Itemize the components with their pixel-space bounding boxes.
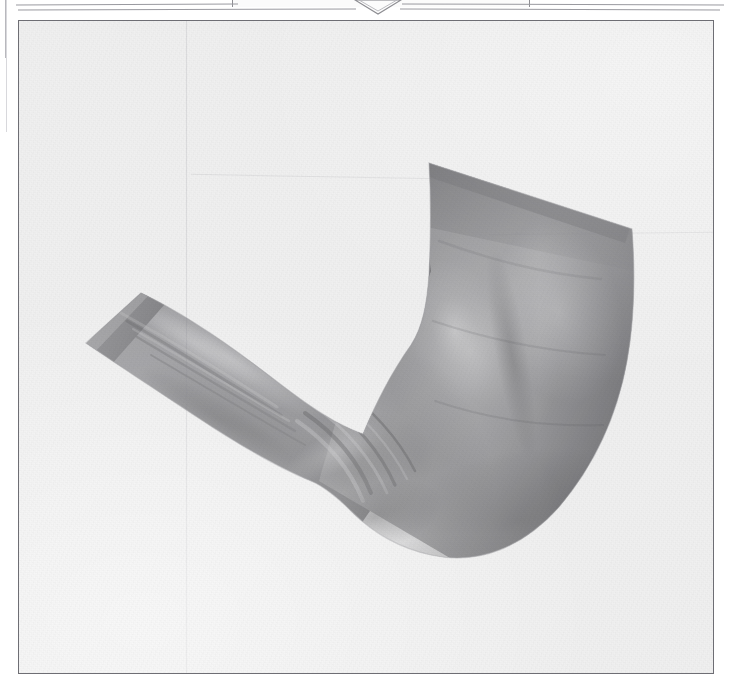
arm-render: [19, 21, 713, 673]
page-spine-line-inner: [6, 0, 7, 132]
triangle-down-icon: [354, 0, 402, 15]
figure-frame: [18, 20, 714, 674]
top-rule-right-2: [400, 8, 720, 10]
caption-zone: [18, 674, 712, 688]
scanned-page: [0, 0, 731, 689]
top-rule-left-2: [18, 8, 356, 10]
top-rule-left: [16, 4, 238, 6]
scan-streak-vertical: [186, 21, 187, 673]
